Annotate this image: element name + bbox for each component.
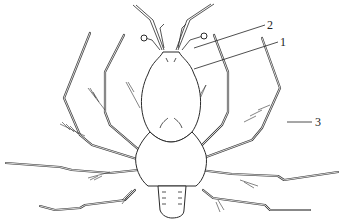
body bbox=[136, 52, 207, 218]
arthropod-figure: 2 1 3 bbox=[0, 0, 342, 220]
label-1: 1 bbox=[280, 35, 286, 49]
label-2: 2 bbox=[267, 18, 273, 32]
leader-line-1 bbox=[194, 42, 278, 69]
cephalothorax bbox=[141, 52, 200, 142]
antennae bbox=[133, 4, 214, 50]
label-3: 3 bbox=[315, 115, 321, 129]
abdomen bbox=[158, 186, 186, 218]
